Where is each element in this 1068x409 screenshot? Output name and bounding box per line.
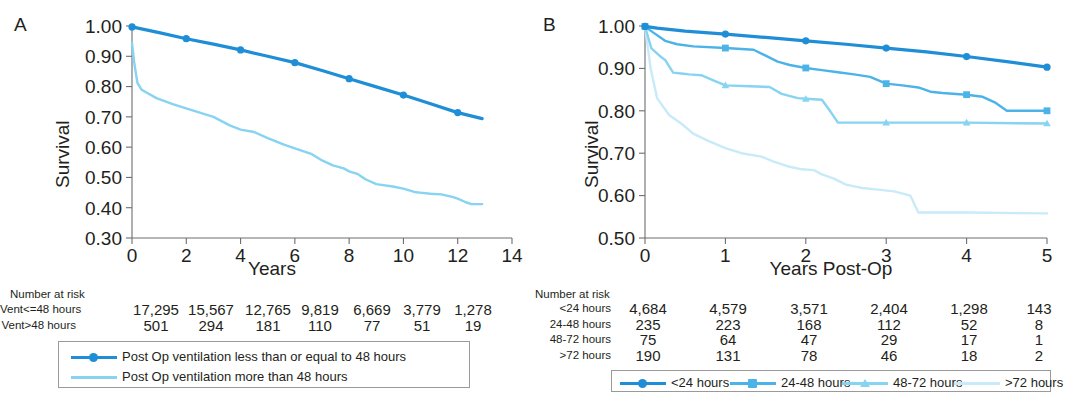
svg-text:4: 4 bbox=[961, 245, 972, 266]
panel-b-risk-value: 4,684 bbox=[614, 300, 682, 317]
svg-text:0.40: 0.40 bbox=[85, 198, 122, 219]
panel-b-risk-value: 3,571 bbox=[775, 300, 843, 317]
panel-a-legend-label: Post Op ventilation less than or equal t… bbox=[122, 349, 406, 364]
panel-b-legend-label: <24 hours bbox=[671, 375, 729, 390]
panel-b-legend-item[interactable]: <24 hours bbox=[620, 375, 729, 390]
panel-b-risk-row-label: 48-72 hours bbox=[531, 333, 611, 345]
svg-text:1.00: 1.00 bbox=[598, 16, 635, 37]
svg-text:0.50: 0.50 bbox=[598, 228, 635, 249]
panel-b-risk-title: Number at risk bbox=[535, 288, 610, 300]
svg-text:0.80: 0.80 bbox=[598, 101, 635, 122]
panel-a-risk-value: 19 bbox=[439, 317, 507, 334]
svg-text:0.90: 0.90 bbox=[85, 46, 122, 67]
panel-a-risk-value: 1,278 bbox=[439, 301, 507, 318]
panel-b-legend-label: >72 hours bbox=[1005, 375, 1063, 390]
panel-b-risk-value: 143 bbox=[1005, 300, 1068, 317]
panel-b-risk-value: 29 bbox=[855, 331, 923, 348]
panel-b-risk-value: 2 bbox=[1005, 347, 1068, 364]
svg-text:0.60: 0.60 bbox=[598, 185, 635, 206]
panel-a-legend-item[interactable]: Post Op ventilation more than 48 hours bbox=[71, 369, 347, 384]
panel-b-risk-value: 1,298 bbox=[935, 300, 1003, 317]
panel-a-legend: Post Op ventilation less than or equal t… bbox=[58, 341, 470, 388]
panel-b-x-axis-title: Years Post-Op bbox=[731, 258, 931, 280]
panel-b-risk-value: 235 bbox=[614, 316, 682, 333]
panel-b-risk-value: 131 bbox=[694, 347, 762, 364]
panel-b-risk-value: 1 bbox=[1005, 331, 1068, 348]
legend-line-swatch bbox=[71, 371, 117, 383]
panel-a-risk-row-label: Vent>48 hours bbox=[0, 319, 76, 331]
panel-b-legend-label: 48-72 hours bbox=[893, 375, 962, 390]
panel-b-risk-value: 4,579 bbox=[694, 300, 762, 317]
panel-b-plot: 1.000.900.800.700.600.50012345 bbox=[531, 0, 1062, 270]
legend-square-marker bbox=[748, 379, 757, 388]
panel-b-risk-row-label: <24 hours bbox=[531, 302, 611, 314]
panel-b-risk-value: 2,404 bbox=[855, 300, 923, 317]
panel-b-risk-value: 47 bbox=[775, 331, 843, 348]
svg-text:2: 2 bbox=[181, 245, 192, 266]
legend-line-swatch bbox=[730, 377, 776, 389]
legend-dot-marker bbox=[89, 353, 98, 362]
panel-b-risk-value: 75 bbox=[614, 331, 682, 348]
svg-text:0.70: 0.70 bbox=[598, 143, 635, 164]
panel-b-legend-item[interactable]: >72 hours bbox=[954, 375, 1063, 390]
panel-b-risk-row-label: >72 hours bbox=[531, 349, 611, 361]
panel-b-risk-value: 52 bbox=[935, 316, 1003, 333]
svg-text:0.70: 0.70 bbox=[85, 107, 122, 128]
svg-text:0.50: 0.50 bbox=[85, 167, 122, 188]
panel-b: B Survival 1.000.900.800.700.600.5001234… bbox=[531, 0, 1062, 409]
svg-text:0.30: 0.30 bbox=[85, 228, 122, 249]
legend-line-swatch bbox=[842, 377, 888, 389]
panel-b-risk-value: 112 bbox=[855, 316, 923, 333]
panel-b-risk-value: 64 bbox=[694, 331, 762, 348]
panel-b-risk-value: 78 bbox=[775, 347, 843, 364]
panel-a-legend-label: Post Op ventilation more than 48 hours bbox=[122, 369, 347, 384]
panel-b-risk-value: 18 bbox=[935, 347, 1003, 364]
panel-a-risk-row-label: Vent<=48 hours bbox=[0, 303, 76, 315]
svg-text:1.00: 1.00 bbox=[85, 16, 122, 37]
panel-b-risk-value: 168 bbox=[775, 316, 843, 333]
legend-dot-marker bbox=[638, 379, 647, 388]
svg-text:10: 10 bbox=[393, 245, 414, 266]
legend-line-swatch bbox=[71, 351, 117, 363]
svg-text:1: 1 bbox=[720, 245, 731, 266]
panel-b-legend-item[interactable]: 24-48 hours bbox=[730, 375, 850, 390]
legend-line-swatch bbox=[620, 377, 666, 389]
panel-a-legend-item[interactable]: Post Op ventilation less than or equal t… bbox=[71, 349, 406, 364]
panel-b-legend: <24 hours24-48 hours48-72 hours>72 hours bbox=[611, 370, 1051, 392]
panel-b-risk-row-label: 24-48 hours bbox=[531, 318, 611, 330]
panel-b-risk-value: 17 bbox=[935, 331, 1003, 348]
panel-b-legend-label: 24-48 hours bbox=[781, 375, 850, 390]
svg-text:8: 8 bbox=[344, 245, 355, 266]
panel-b-risk-value: 223 bbox=[694, 316, 762, 333]
svg-text:5: 5 bbox=[1042, 245, 1053, 266]
svg-text:14: 14 bbox=[501, 245, 523, 266]
svg-text:0.80: 0.80 bbox=[85, 76, 122, 97]
legend-triangle-marker bbox=[860, 379, 870, 387]
svg-text:0: 0 bbox=[127, 245, 138, 266]
svg-text:0: 0 bbox=[640, 245, 651, 266]
panel-a-x-axis-title: Years bbox=[212, 258, 332, 280]
panel-a-risk-title: Number at risk bbox=[10, 288, 85, 300]
panel-b-legend-item[interactable]: 48-72 hours bbox=[842, 375, 962, 390]
svg-text:12: 12 bbox=[447, 245, 468, 266]
panel-b-risk-value: 190 bbox=[614, 347, 682, 364]
svg-text:0.60: 0.60 bbox=[85, 137, 122, 158]
svg-text:0.90: 0.90 bbox=[598, 58, 635, 79]
panel-b-risk-value: 46 bbox=[855, 347, 923, 364]
panel-a: A Survival 1.000.900.800.700.600.500.400… bbox=[0, 0, 531, 409]
panel-a-plot: 1.000.900.800.700.600.500.400.3002468101… bbox=[0, 0, 531, 270]
panel-b-risk-value: 8 bbox=[1005, 316, 1068, 333]
legend-line-swatch bbox=[954, 377, 1000, 389]
